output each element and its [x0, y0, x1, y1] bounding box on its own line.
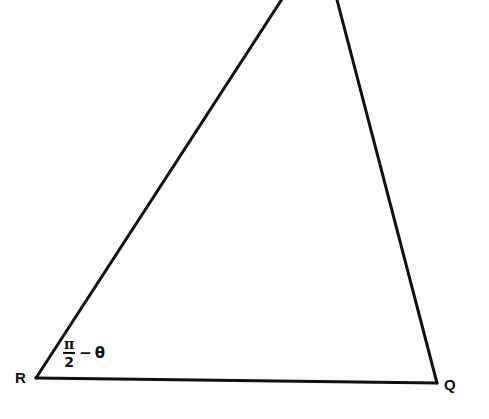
- theta-symbol: θ: [95, 344, 105, 362]
- vertex-label-q: Q: [444, 377, 456, 392]
- fraction-denominator: 2: [64, 354, 74, 369]
- minus-sign: −: [79, 344, 92, 362]
- side-rp: [36, 0, 284, 378]
- fraction-numerator: π: [63, 337, 75, 354]
- angle-label-r: π 2 − θ: [63, 337, 105, 369]
- side-qp: [336, 0, 437, 383]
- angle-fraction: π 2: [63, 337, 75, 369]
- vertex-label-r: R: [15, 370, 26, 385]
- side-rq: [36, 378, 437, 383]
